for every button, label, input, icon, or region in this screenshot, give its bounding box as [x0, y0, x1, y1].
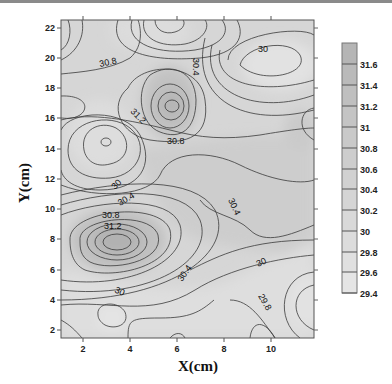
x-tick-label: 6: [174, 344, 179, 354]
colorbar-label: 31.6: [360, 60, 378, 70]
contour-label: 31.2: [104, 221, 122, 231]
y-tick-label: 14: [45, 144, 55, 154]
y-tick-label: 18: [45, 83, 55, 93]
y-tick-label: 4: [50, 295, 55, 305]
colorbar-label: 30.2: [360, 206, 378, 216]
top-ticks: [83, 16, 271, 20]
x-tick-label: 8: [221, 344, 226, 354]
x-tick-label: 10: [266, 344, 276, 354]
y-tick-label: 2: [50, 325, 55, 335]
colorbar-label: 30.4: [360, 185, 378, 195]
colorbar-label: 31.4: [360, 81, 378, 91]
y-tick-label: 20: [45, 53, 55, 63]
y-tick-label: 22: [45, 23, 55, 33]
contour-plot: 30.8 30.4 30 31.2 30.8 30 30.4 30.8 31.2…: [0, 0, 392, 384]
colorbar-label: 30.6: [360, 165, 378, 175]
colorbar-label: 29.4: [360, 289, 378, 299]
contour-label: 30.8: [102, 210, 120, 220]
right-ticks: [314, 28, 318, 330]
x-axis-label: X(cm): [178, 358, 218, 375]
x-tick-label: 2: [80, 344, 85, 354]
contour-label: 30.4: [191, 58, 201, 76]
x-tick-label: 4: [127, 344, 132, 354]
y-axis-label: Y(cm): [16, 163, 33, 203]
colorbar-label: 30: [360, 227, 370, 237]
contour-label: 30: [258, 44, 268, 54]
colorbar: 31.6 31.4 31.2 31 30.8 30.6 30.4 30.2 30…: [342, 43, 378, 299]
y-axis: 2 4 6 8 10 12 14 16 18 20 22 Y(cm): [16, 23, 61, 335]
y-tick-label: 12: [45, 174, 55, 184]
colorbar-label: 31: [360, 123, 370, 133]
y-tick-label: 10: [45, 204, 55, 214]
colorbar-label: 29.8: [360, 248, 378, 258]
x-axis: 2 4 6 8 10 X(cm): [80, 338, 276, 375]
contour-label: 30.8: [167, 136, 185, 146]
y-tick-label: 6: [50, 265, 55, 275]
colorbar-label: 29.6: [360, 268, 378, 278]
y-tick-label: 16: [45, 113, 55, 123]
colorbar-label: 31.2: [360, 102, 378, 112]
y-tick-label: 8: [50, 234, 55, 244]
colorbar-label: 30.8: [360, 144, 378, 154]
